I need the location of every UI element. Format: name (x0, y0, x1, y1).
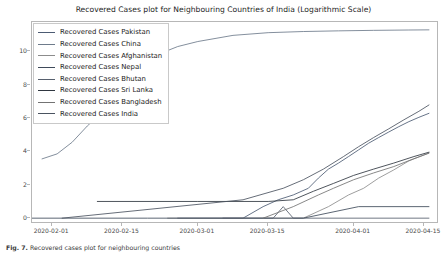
legend-item-label: Recovered Cases Nepal (60, 64, 141, 71)
legend-item[interactable]: Recovered Cases Sri Lanka (38, 85, 162, 97)
x-axis-tick-label: 2020-02-01 (34, 227, 69, 234)
y-axis-tick-mark (27, 184, 30, 185)
legend-item[interactable]: Recovered Cases China (38, 39, 162, 51)
caption-prefix: Fig. 7. (6, 244, 28, 251)
legend-color-swatch (38, 102, 55, 103)
legend-item-label: Recovered Cases India (60, 111, 138, 118)
legend-item[interactable]: Recovered Cases Nepal (38, 62, 162, 74)
legend-color-swatch (38, 90, 55, 91)
y-axis-tick-mark (27, 117, 30, 118)
x-axis-tick-label: 2020-04-15 (405, 227, 440, 234)
series-line (168, 153, 429, 218)
x-axis-tick-label: 2020-03-01 (179, 227, 214, 234)
y-axis-tick-mark (27, 50, 30, 51)
legend-item[interactable]: Recovered Cases Bhutan (38, 73, 162, 85)
legend-color-swatch (38, 44, 55, 45)
series-line (32, 207, 429, 219)
legend-color-swatch (38, 32, 55, 33)
legend-item-label: Recovered Cases Afghanistan (60, 53, 162, 60)
legend-item[interactable]: Recovered Cases Bangladesh (38, 97, 162, 109)
legend-item[interactable]: Recovered Cases India (38, 108, 162, 120)
x-axis-tick-mark (267, 223, 268, 226)
chart-legend: Recovered Cases PakistanRecovered Cases … (33, 23, 169, 124)
legend-item[interactable]: Recovered Cases Afghanistan (38, 50, 162, 62)
x-axis-tick-mark (121, 223, 122, 226)
legend-color-swatch (38, 55, 55, 56)
figure-canvas: Recovered Cases plot for Neighbouring Co… (0, 0, 447, 255)
legend-item-label: Recovered Cases China (60, 41, 141, 48)
y-axis-tick-mark (27, 150, 30, 151)
figure-caption: Fig. 7. Recovered cases plot for neighbo… (6, 244, 180, 251)
legend-item[interactable]: Recovered Cases Pakistan (38, 27, 162, 39)
y-axis-tick-mark (27, 84, 30, 85)
x-axis-tick-label: 2020-03-15 (250, 227, 285, 234)
caption-text: Recovered cases plot for neighbouring co… (30, 244, 180, 251)
legend-color-swatch (38, 79, 55, 80)
page-title: Recovered Cases plot for Neighbouring Co… (0, 5, 447, 14)
y-axis-tick-mark (27, 217, 30, 218)
legend-item-label: Recovered Cases Sri Lanka (60, 87, 153, 94)
legend-item-label: Recovered Cases Pakistan (60, 29, 150, 36)
y-axis-tick-label: 10 (19, 47, 27, 54)
series-line (263, 153, 429, 218)
legend-item-label: Recovered Cases Bhutan (60, 76, 146, 83)
legend-item-label: Recovered Cases Bangladesh (60, 99, 162, 106)
x-axis-tick-mark (51, 223, 52, 226)
legend-color-swatch (38, 67, 55, 68)
legend-color-swatch (38, 113, 55, 114)
x-axis-tick-mark (423, 223, 424, 226)
x-axis-tick-label: 2020-04-01 (335, 227, 370, 234)
x-axis-tick-mark (353, 223, 354, 226)
x-axis-tick-label: 2020-02-15 (104, 227, 139, 234)
x-axis-tick-mark (197, 223, 198, 226)
y-axis-tick-layer: 0246810 (0, 0, 27, 255)
